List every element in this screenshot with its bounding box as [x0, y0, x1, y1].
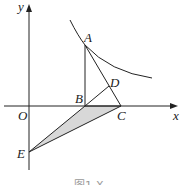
- figure-caption: 图1-X: [74, 179, 104, 185]
- origin-label: O: [18, 108, 28, 123]
- point-e-label: E: [16, 146, 25, 161]
- point-a-label: A: [83, 30, 92, 45]
- point-c-label: C: [117, 108, 126, 123]
- x-axis-label: x: [172, 108, 179, 123]
- y-axis-arrow-icon: [26, 4, 32, 12]
- segment-bd: [85, 86, 109, 106]
- point-b-label: B: [75, 91, 83, 106]
- point-d-label: D: [109, 75, 120, 90]
- shaded-triangle-bce: [29, 106, 121, 152]
- curve: [70, 20, 152, 78]
- y-axis-label: y: [16, 0, 24, 14]
- figure-canvas: y x O A B C D E 图1-X: [0, 0, 181, 185]
- geometry-figure: y x O A B C D E 图1-X: [0, 0, 181, 185]
